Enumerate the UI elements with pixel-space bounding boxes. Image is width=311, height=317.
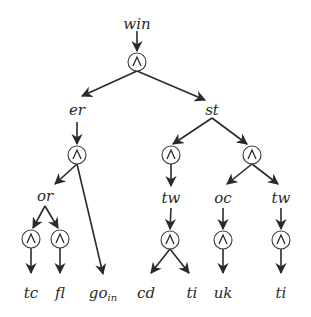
node-label-tw1: tw [162,189,181,207]
nodes-layer: winerstortwoctwtcflgoincdtiukti [22,15,291,303]
and-gate-icon [243,146,261,164]
node-label-ti2: ti [276,284,287,302]
arrow-edge [45,206,58,228]
arrow-edge [227,164,252,184]
arrow-edge [151,249,170,273]
node-label-tc: tc [24,284,39,302]
and-gate-icon [214,231,232,249]
arrow-edge [77,164,103,274]
and-gate-icon [68,146,86,164]
arrow-edge [82,71,137,96]
arrow-edge [33,206,45,228]
arrow-edge [170,208,171,229]
node-label-cd: cd [137,284,155,302]
and-gate-icon [161,231,179,249]
node-label-win: win [123,15,150,33]
arrow-edge [170,249,189,273]
node-label-er: er [69,101,86,119]
node-label-uk: uk [214,284,233,302]
node-label-or: or [37,187,54,205]
node-label-fl: fl [54,284,65,302]
arrow-edge [55,164,77,184]
and-gate-icon [162,146,180,164]
arrow-edge [137,71,205,100]
and-gate-icon [128,53,146,71]
node-label-oc: oc [214,189,232,207]
and-tree-diagram: winerstortwoctwtcflgoincdtiukti [0,0,311,317]
arrow-edge [212,118,247,144]
arrow-edge [252,164,278,184]
arrow-edge [173,118,212,144]
node-label-tw2: tw [272,189,291,207]
and-gate-icon [22,230,40,248]
node-label-st: st [205,101,220,119]
and-gate-icon [51,230,69,248]
node-label-ti1: ti [187,284,198,302]
and-gate-icon [272,231,290,249]
node-label-goin: goin [89,284,117,303]
